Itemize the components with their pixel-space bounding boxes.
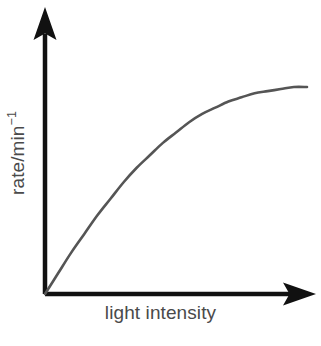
- y-axis-label-container: rate/min−1: [0, 90, 34, 216]
- y-axis-label: rate/min−1: [8, 111, 27, 195]
- y-axis-label-exponent: −1: [5, 111, 19, 125]
- chart-figure: rate/min−1 light intensity: [0, 0, 321, 346]
- rate-vs-light-intensity-plot: [0, 0, 321, 346]
- saturation-curve: [45, 87, 307, 294]
- x-axis-label: light intensity: [0, 303, 321, 322]
- y-axis-label-base: rate/min: [7, 126, 28, 195]
